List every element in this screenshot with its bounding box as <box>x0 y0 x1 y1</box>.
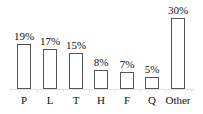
x-axis-tick <box>63 89 64 92</box>
x-axis-tick <box>191 89 192 92</box>
bar-chart: 19%P17%L15%T8%H7%F5%Q30%Other <box>0 0 203 114</box>
x-axis-tick <box>89 89 90 92</box>
value-label: 30% <box>158 5 198 16</box>
x-axis-tick <box>11 89 12 92</box>
bar-q <box>145 77 159 89</box>
bar-l <box>43 49 57 89</box>
value-label: 15% <box>56 40 96 51</box>
bar-p <box>17 44 31 89</box>
x-axis-tick <box>165 89 166 92</box>
x-axis-tick <box>37 89 38 92</box>
x-axis-tick <box>114 89 115 92</box>
bar-h <box>94 70 108 89</box>
x-axis-tick <box>140 89 141 92</box>
category-label: Other <box>158 95 198 106</box>
bar-other <box>171 18 185 89</box>
value-label: 5% <box>132 64 172 75</box>
